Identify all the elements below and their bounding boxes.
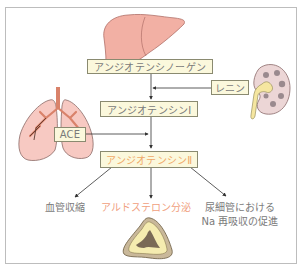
kidney-icon (251, 65, 290, 119)
angiotensin2-label: アンジオテンシンⅡ (106, 152, 193, 167)
na-reabsorption-line2: Na 再吸収の促進 (197, 215, 283, 228)
angiotensin2-box: アンジオテンシンⅡ (100, 151, 198, 168)
na-reabsorption-line1: 尿細管における (197, 201, 283, 214)
angiotensinogen-label: アンジオテンシノーゲン (94, 59, 206, 74)
vasoconstriction-label: 血管収縮 (40, 201, 90, 214)
ace-label: ACE (60, 129, 81, 140)
adrenal-gland-icon (123, 218, 172, 259)
ace-box: ACE (54, 127, 86, 142)
aldosterone-label: アルドステロン分泌 (96, 201, 196, 214)
arrow-to-na-reabsorption (190, 167, 226, 196)
lungs-icon (19, 87, 93, 161)
renin-box: レニン (211, 80, 249, 95)
arrows (75, 73, 226, 198)
angiotensin1-label: アンジオテンシンⅠ (107, 102, 192, 117)
angiotensinogen-box: アンジオテンシノーゲン (87, 59, 213, 74)
angiotensin1-box: アンジオテンシンⅠ (100, 101, 198, 117)
diagram-art (0, 0, 300, 271)
renin-label: レニン (215, 80, 246, 95)
arrow-to-vasoconstriction (75, 167, 112, 197)
